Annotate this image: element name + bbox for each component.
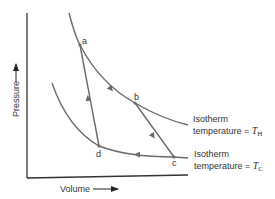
point-label-d: d	[96, 149, 101, 159]
isotherm-cold-curve	[52, 83, 188, 158]
isotherm-cold-prefix: temperature =	[194, 161, 253, 171]
y-axis-label-group: Pressure	[11, 81, 21, 117]
isotherm-hot-prefix: temperature =	[193, 126, 252, 136]
carnot-cycle-diagram: Pressure Volume a b c d Isotherm tempera…	[0, 0, 275, 199]
point-label-c: c	[172, 158, 177, 168]
isotherm-cold-line2: temperature = TC	[194, 160, 263, 173]
isotherm-cold-subscript: C	[258, 165, 263, 173]
arrow-b-to-c-icon	[149, 130, 153, 136]
isotherm-hot-line2: temperature = TH	[193, 125, 262, 138]
x-axis	[27, 175, 188, 178]
isotherm-cold-line1: Isotherm	[194, 149, 229, 159]
isotherm-hot-line1: Isotherm	[193, 114, 228, 124]
axes	[27, 13, 188, 178]
point-label-a: a	[82, 36, 87, 46]
state-points	[78, 43, 175, 158]
point-d	[97, 144, 100, 147]
adiabat-b-to-c	[135, 103, 174, 157]
isotherm-cold-label: Isotherm temperature = TC	[194, 149, 263, 173]
isotherm-hot-curve	[69, 13, 188, 125]
arrow-d-to-a-icon	[88, 98, 89, 104]
point-label-b: b	[134, 92, 139, 102]
isotherm-hot-label: Isotherm temperature = TH	[193, 114, 262, 138]
x-axis-label: Volume	[60, 184, 90, 194]
y-axis-label: Pressure	[11, 81, 21, 117]
isotherm-hot-subscript: H	[257, 130, 262, 138]
